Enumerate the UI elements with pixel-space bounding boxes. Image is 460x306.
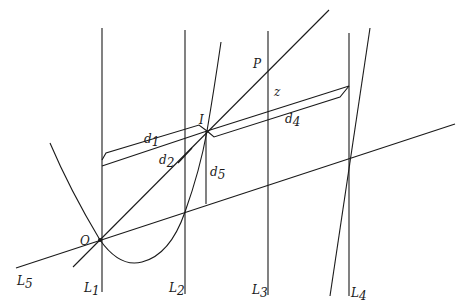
point-O [98,238,102,242]
parabola [50,42,221,263]
label-z: z [273,85,281,99]
label-L2: L2 [168,281,185,298]
line-O-I-P [73,10,329,267]
geometry-figure: O I P z d1 d2 d4 d5 L1 L2 L3 L4 L5 [0,0,460,306]
label-L1: L1 [83,281,100,298]
label-d5: d5 [210,165,225,182]
label-d2: d2 [159,153,174,170]
label-L3: L3 [251,283,268,300]
label-L5: L5 [16,274,33,291]
slanted-line-near-L4 [330,28,370,296]
label-d1: d1 [144,132,159,149]
label-L4: L4 [350,286,367,303]
label-O: O [80,234,90,248]
label-P: P [252,57,262,71]
label-d4: d4 [285,112,300,129]
label-I: I [198,113,204,127]
